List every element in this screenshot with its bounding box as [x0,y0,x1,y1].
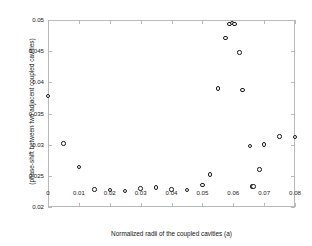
scatter-plot-figure: 00.010.020.030.040.050.060.070.080.020.0… [0,0,312,246]
x-tick-mark-top [110,20,111,24]
y-tick-mark-right [291,207,295,208]
x-tick-mark-top [141,20,142,24]
y-tick-mark-right [291,114,295,115]
data-point-marker [251,184,255,188]
y-tick-label: 0.02 [0,203,44,210]
plot-area [48,20,295,207]
data-point-marker [154,185,158,189]
data-point-marker [277,134,281,138]
data-point-marker [61,141,65,145]
y-tick-mark-right [291,20,295,21]
y-tick-label: 0.03 [0,141,44,148]
x-tick-mark-top [79,20,80,24]
data-point-marker [208,172,212,176]
x-tick-mark [172,203,173,207]
y-tick-mark [48,176,52,177]
data-point-marker [92,187,96,191]
x-tick-mark [233,203,234,207]
x-tick-mark-top [172,20,173,24]
y-tick-label: 0.05 [0,16,44,23]
data-point-marker [138,186,142,190]
y-tick-mark-right [291,51,295,52]
x-tick-mark [141,203,142,207]
y-tick-mark [48,114,52,115]
y-tick-label: 0.035 [0,110,44,117]
y-tick-label: 0.04 [0,78,44,85]
x-tick-mark [202,203,203,207]
y-tick-mark-right [291,176,295,177]
x-tick-mark [264,203,265,207]
y-tick-mark [48,145,52,146]
y-tick-label: 0.025 [0,172,44,179]
y-tick-mark-right [291,82,295,83]
y-tick-label: 0.045 [0,47,44,54]
y-tick-mark [48,207,52,208]
data-point-marker [257,167,261,171]
data-point-marker [232,22,236,26]
data-point-marker [216,86,220,90]
data-point-marker [293,135,297,139]
y-tick-mark [48,82,52,83]
data-point-marker [223,36,227,40]
x-tick-mark [110,203,111,207]
y-tick-mark [48,20,52,21]
data-point-marker [240,88,244,92]
data-point-marker [200,183,204,187]
y-axis-title: (phase-shift between two adjacent couple… [28,12,35,212]
x-tick-mark [295,203,296,207]
data-point-marker [237,50,241,54]
y-tick-mark [48,51,52,52]
y-tick-mark-right [291,145,295,146]
x-tick-label: 0.08 [275,189,312,196]
x-tick-mark [79,203,80,207]
x-tick-mark-top [264,20,265,24]
x-axis-title: Normalized radii of the coupled cavities… [48,230,295,237]
x-tick-mark-top [295,20,296,24]
x-tick-mark-top [202,20,203,24]
data-point-marker [169,187,173,191]
